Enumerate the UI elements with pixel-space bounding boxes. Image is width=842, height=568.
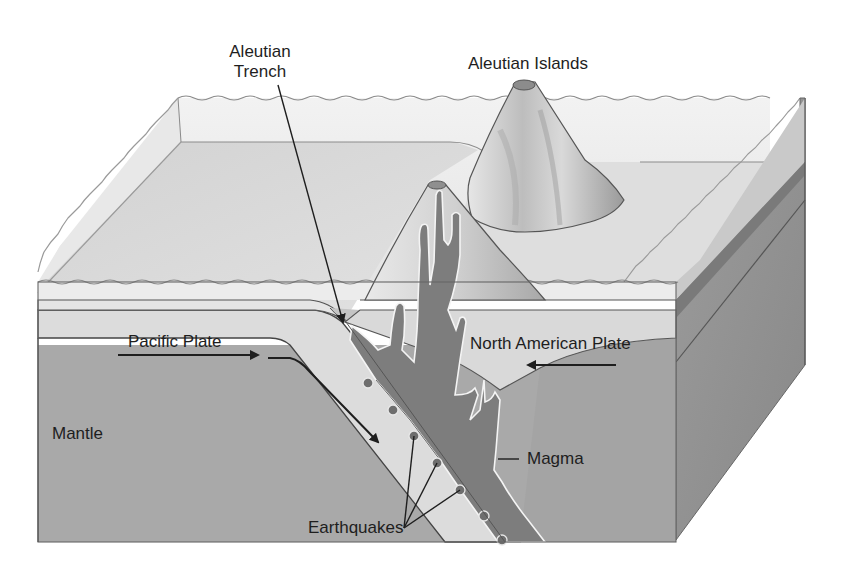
na-mantle-region [520, 338, 676, 542]
subduction-diagram: Aleutian Trench Aleutian Islands Pacific… [0, 0, 842, 568]
label-aleutian-trench: Aleutian Trench [210, 42, 310, 82]
earthquake-dot [388, 405, 398, 415]
label-aleutian-trench-line1: Aleutian [210, 42, 310, 62]
label-pacific-plate: Pacific Plate [128, 332, 222, 352]
label-north-american-plate: North American Plate [470, 334, 631, 354]
earthquake-dot [497, 535, 507, 545]
earthquake-dot [363, 378, 373, 388]
arc-volcano-crater [428, 181, 446, 189]
label-earthquakes: Earthquakes [308, 518, 403, 538]
label-aleutian-islands: Aleutian Islands [468, 54, 588, 74]
label-aleutian-trench-line2: Trench [210, 62, 310, 82]
diagram-canvas [0, 0, 842, 568]
water-front-face [38, 282, 676, 300]
island-volcano-crater [513, 80, 535, 90]
label-magma: Magma [527, 449, 584, 469]
label-mantle: Mantle [52, 424, 103, 444]
